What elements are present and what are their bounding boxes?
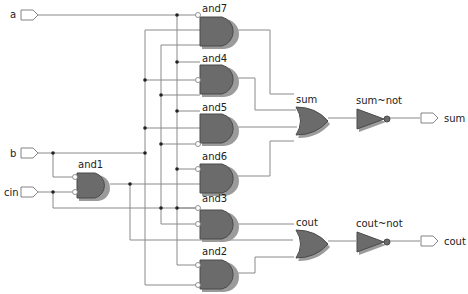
output-label-cout: cout: [444, 236, 466, 247]
gate-label-and3: and3: [202, 193, 227, 204]
circuit-diagram: a b cin and7 and4 and5 and6: [0, 0, 468, 294]
input-port-a: a: [10, 9, 38, 20]
and-gate-and4: and4: [196, 53, 240, 97]
input-port-cin: cin: [4, 187, 38, 198]
output-port-cout: cout: [421, 236, 466, 247]
or-gate-cout: cout: [296, 217, 330, 261]
gate-label-and5: and5: [202, 102, 227, 113]
or-gate-sum: sum: [296, 94, 330, 138]
output-label-sum: sum: [444, 113, 465, 124]
gate-label-not-cout: cout~not: [356, 218, 403, 229]
input-label-a: a: [10, 9, 16, 20]
gate-label-and7: and7: [202, 3, 227, 14]
gate-label-or-cout: cout: [296, 217, 318, 228]
gate-label-and6: and6: [202, 151, 227, 162]
and-gate-and5: and5: [196, 102, 240, 147]
output-port-sum: sum: [421, 113, 465, 124]
not-gate-cout: cout~not: [356, 218, 403, 255]
and-gate-and1: and1: [73, 159, 111, 201]
input-label-cin: cin: [4, 187, 19, 198]
gate-label-and4: and4: [202, 53, 227, 64]
and-gate-and6: and6: [196, 151, 240, 196]
and-gate-and2: and2: [196, 246, 240, 292]
gate-label-and1: and1: [78, 159, 103, 170]
gate-label-not-sum: sum~not: [356, 95, 402, 106]
gate-label-and2: and2: [202, 246, 227, 257]
and-gate-and3: and3: [196, 193, 240, 242]
input-label-b: b: [10, 148, 16, 159]
input-port-b: b: [10, 148, 38, 159]
not-gate-sum: sum~not: [356, 95, 402, 132]
junction-dots: [51, 13, 179, 210]
and-gate-and7: and7: [196, 3, 240, 49]
gate-label-or-sum: sum: [296, 94, 317, 105]
